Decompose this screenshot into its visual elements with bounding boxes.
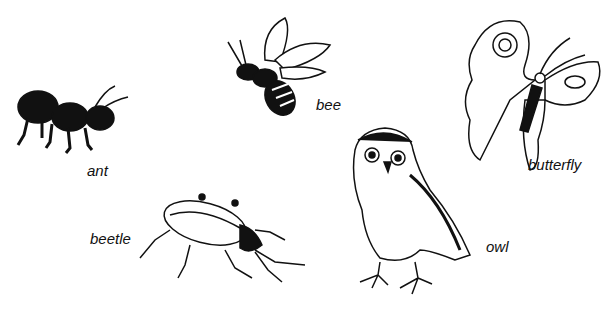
label-ant: ant [87, 162, 108, 179]
bee-drawing [228, 18, 330, 121]
owl-drawing [354, 128, 470, 294]
label-butterfly: butterfly [528, 156, 581, 173]
beetle-drawing [140, 193, 305, 282]
butterfly-drawing [465, 21, 599, 170]
label-beetle: beetle [90, 230, 131, 247]
label-bee: bee [316, 96, 341, 113]
label-owl: owl [486, 238, 509, 255]
ant-drawing [18, 86, 128, 153]
illustration-canvas: ant bee butterfly beetle owl [0, 0, 609, 312]
animal-drawings [0, 0, 609, 312]
